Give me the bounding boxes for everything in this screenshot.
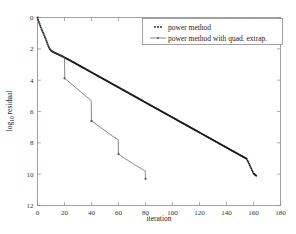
data-point bbox=[252, 171, 254, 173]
y-tick-label: 4 bbox=[30, 77, 34, 85]
extrapolation-jump-marker bbox=[144, 178, 146, 180]
y-tick-label: 6 bbox=[30, 108, 34, 116]
y-tick-label: 12 bbox=[27, 202, 35, 210]
extrapolation-jump-marker bbox=[63, 77, 65, 79]
x-tick-label: 160 bbox=[248, 209, 259, 217]
series-power-method-quad-extrap bbox=[38, 18, 147, 180]
extrapolation-jump-marker bbox=[117, 153, 119, 155]
x-axis-ticks bbox=[38, 18, 281, 206]
x-tick-label: 60 bbox=[115, 209, 123, 217]
data-point bbox=[255, 175, 257, 177]
legend-label-quad-extrap: power method with quad. extrap. bbox=[168, 34, 267, 43]
legend-marker-power-method bbox=[154, 26, 162, 28]
data-point bbox=[247, 161, 249, 163]
data-point bbox=[248, 163, 250, 165]
svg-text:log10 residual: log10 residual bbox=[5, 91, 15, 132]
data-point bbox=[250, 166, 252, 168]
x-tick-label: 0 bbox=[36, 209, 40, 217]
extrapolation-jump-marker bbox=[90, 120, 92, 122]
y-axis-tick-labels: 024681012 bbox=[27, 14, 35, 210]
y-tick-label: 8 bbox=[30, 139, 34, 147]
y-axis-title-main: log bbox=[5, 122, 14, 132]
legend-label-power-method: power method bbox=[168, 23, 211, 32]
y-axis-ticks bbox=[38, 18, 281, 206]
data-point bbox=[250, 168, 252, 170]
x-tick-label: 20 bbox=[61, 209, 69, 217]
data-point bbox=[251, 169, 253, 171]
legend: power method power method with quad. ext… bbox=[143, 19, 283, 45]
x-tick-label: 140 bbox=[221, 209, 232, 217]
data-point bbox=[247, 159, 249, 161]
y-tick-label: 2 bbox=[30, 45, 34, 53]
y-tick-label: 0 bbox=[30, 14, 34, 22]
x-tick-label: 40 bbox=[88, 209, 96, 217]
x-tick-label: 120 bbox=[194, 209, 205, 217]
x-axis-title: iteration bbox=[147, 214, 172, 223]
convergence-chart-figure: 020406080100120140160180 024681012 itera… bbox=[0, 0, 296, 234]
data-point bbox=[246, 158, 248, 160]
chart-canvas: 020406080100120140160180 024681012 itera… bbox=[0, 0, 296, 234]
series-line bbox=[38, 18, 146, 179]
data-point bbox=[249, 164, 251, 166]
x-tick-label: 180 bbox=[275, 209, 286, 217]
y-tick-label: 10 bbox=[27, 171, 35, 179]
plot-frame bbox=[38, 18, 281, 206]
y-axis-title: log10 residual bbox=[5, 91, 15, 132]
y-axis-title-tail: residual bbox=[5, 91, 14, 117]
